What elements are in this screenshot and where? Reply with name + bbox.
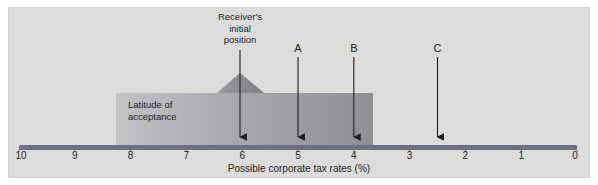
latitude-of-acceptance-label: Latitude of acceptance	[128, 99, 177, 122]
axis-tick-label-7: 7	[184, 150, 190, 162]
axis-tick-label-5: 5	[295, 150, 301, 162]
axis-tick-label-0: 0	[572, 150, 578, 162]
axis-tick-label-6: 6	[239, 150, 245, 162]
figure-container: Latitude of acceptance Receiver's initia…	[0, 0, 598, 185]
axis-tick-label-8: 8	[128, 150, 134, 162]
axis-title: Possible corporate tax rates (%)	[228, 163, 370, 175]
offer-c-label: C	[434, 42, 442, 55]
axis-tick-label-4: 4	[351, 150, 357, 162]
axis-tick-label-9: 9	[72, 150, 78, 162]
offer-a-label: A	[294, 42, 301, 55]
axis-tick-label-3: 3	[407, 150, 413, 162]
axis-tick-label-2: 2	[463, 150, 469, 162]
axis-tick-label-10: 10	[15, 150, 26, 162]
axis-tick-label-1: 1	[518, 150, 524, 162]
receivers-initial-position-label: Receiver's initial position	[218, 11, 262, 46]
offer-b-label: B	[350, 42, 357, 55]
